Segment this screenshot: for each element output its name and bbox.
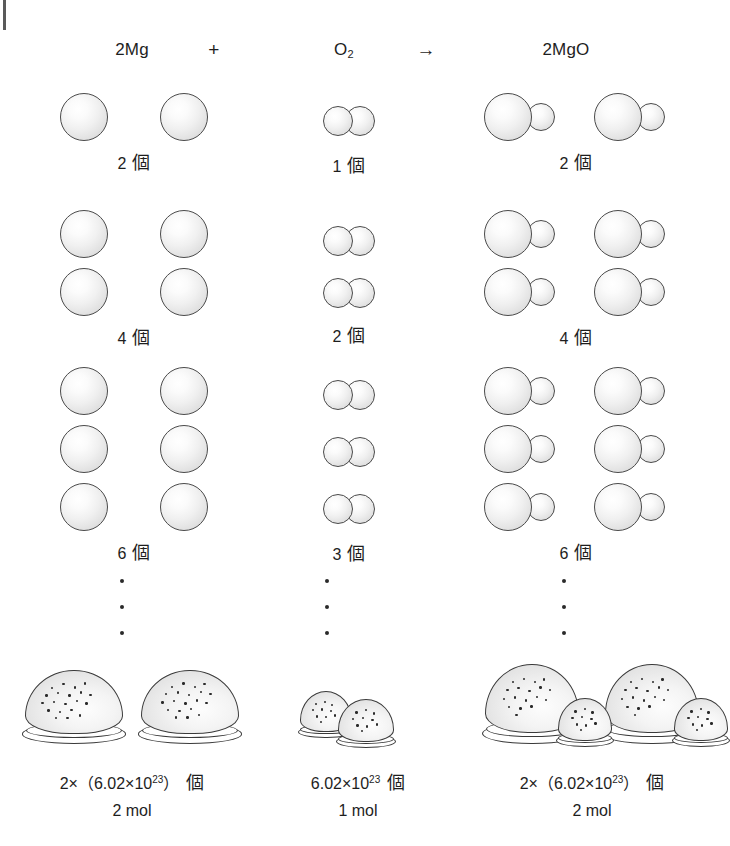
particles-mantissa: 6.02×10 bbox=[94, 775, 152, 792]
particles-suffix: ） bbox=[623, 775, 639, 792]
oxygen-molecule-icon bbox=[323, 380, 375, 410]
magnesium-atom-icon bbox=[594, 367, 642, 415]
oxygen-atom-icon bbox=[323, 106, 353, 136]
oxygen-bulk-quantity: 6.02×1023個 1 mol bbox=[268, 768, 448, 826]
particles-unit: 個 bbox=[186, 773, 204, 793]
magnesium-atom-icon bbox=[594, 93, 642, 141]
magnesium-oxide-powder-pile-small bbox=[672, 697, 730, 747]
magnesium-oxide-bulk-quantity: 2×（6.02×1023）個 2 mol bbox=[474, 768, 710, 826]
magnesium-atom-icon bbox=[484, 483, 532, 531]
magnesium-powder-pile bbox=[22, 668, 126, 744]
particles-exponent: 23 bbox=[369, 774, 380, 785]
magnesium-atom-icon bbox=[484, 425, 532, 473]
particles-exponent: 23 bbox=[152, 774, 163, 785]
magnesium-atom-icon bbox=[484, 210, 532, 258]
oxygen-atom-icon bbox=[323, 380, 353, 410]
oxygen-atom-icon bbox=[323, 226, 353, 256]
particles-unit: 個 bbox=[646, 773, 664, 793]
particles-prefix: 2×（ bbox=[60, 775, 94, 792]
particles-mantissa: 6.02×10 bbox=[311, 775, 369, 792]
magnesium-atom-icon bbox=[594, 268, 642, 316]
magnesium-atom-icon bbox=[484, 367, 532, 415]
pile-mound bbox=[338, 699, 394, 742]
oxygen-powder-pile bbox=[336, 698, 396, 748]
magnesium-particle-count: 2×（6.02×1023）個 bbox=[14, 768, 250, 796]
oxygen-molecule-icon bbox=[323, 494, 375, 524]
oxygen-molecule-icon bbox=[323, 437, 375, 467]
oxygen-molecule-icon bbox=[323, 278, 375, 308]
magnesium-atom-icon bbox=[594, 425, 642, 473]
oxygen-molecule-icon bbox=[323, 226, 375, 256]
pile-mound bbox=[674, 698, 729, 741]
magnesium-atom-icon bbox=[594, 210, 642, 258]
magnesium-mole-amount: 2 mol bbox=[14, 796, 250, 826]
magnesium-powder-pile bbox=[138, 668, 242, 744]
particles-mantissa: 6.02×10 bbox=[554, 775, 612, 792]
magnesium-oxide-powder-pile-small bbox=[556, 697, 614, 747]
magnesium-atom-icon bbox=[484, 268, 532, 316]
particles-prefix: 2×（ bbox=[520, 775, 554, 792]
particles-suffix: ） bbox=[163, 775, 179, 792]
oxygen-mole-amount: 1 mol bbox=[268, 796, 448, 826]
pile-mound bbox=[141, 670, 239, 735]
oxygen-particle-count: 6.02×1023個 bbox=[268, 768, 448, 796]
magnesium-atom-icon bbox=[594, 483, 642, 531]
oxygen-atom-icon bbox=[323, 494, 353, 524]
oxygen-molecule-icon bbox=[323, 106, 375, 136]
particles-exponent: 23 bbox=[612, 774, 623, 785]
pile-mound bbox=[25, 670, 123, 735]
magnesium-atom-icon bbox=[484, 93, 532, 141]
particles-unit: 個 bbox=[387, 773, 405, 793]
magnesium-bulk-quantity: 2×（6.02×1023）個 2 mol bbox=[14, 768, 250, 826]
magnesium-oxide-particle-count: 2×（6.02×1023）個 bbox=[474, 768, 710, 796]
pile-mound bbox=[558, 698, 613, 741]
oxygen-atom-icon bbox=[323, 437, 353, 467]
magnesium-oxide-mole-amount: 2 mol bbox=[474, 796, 710, 826]
oxygen-atom-icon bbox=[323, 278, 353, 308]
